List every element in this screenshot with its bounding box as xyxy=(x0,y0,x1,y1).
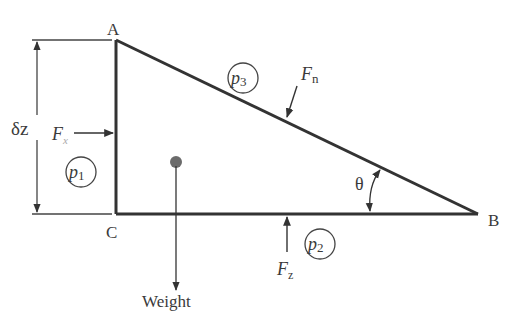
p3-label: p3 xyxy=(229,68,247,89)
fn-arrow-icon xyxy=(287,86,297,117)
force-fx: Fx xyxy=(51,124,113,146)
theta-label: θ xyxy=(355,174,364,194)
fx-label: Fx xyxy=(51,124,68,146)
vertex-c-label: C xyxy=(106,223,117,242)
wedge-triangle xyxy=(116,40,478,214)
vertex-a-label: A xyxy=(107,20,120,39)
fz-label: Fz xyxy=(276,259,293,282)
angle-theta: θ xyxy=(355,170,380,211)
wedge-diagram: A C B δz Fx p1 p3 Fn Weight Fz xyxy=(0,0,515,334)
pressure-p1-badge: p1 xyxy=(66,157,96,187)
fn-label: Fn xyxy=(300,64,319,86)
weight-label: Weight xyxy=(142,292,191,311)
line-gap xyxy=(301,117,311,127)
vertex-b-label: B xyxy=(488,211,499,230)
dimension-label: δz xyxy=(11,118,28,139)
p2-label: p2 xyxy=(306,234,324,255)
pressure-p3-badge: p3 xyxy=(228,63,258,93)
side-ab xyxy=(116,40,478,214)
p1-label: p1 xyxy=(67,162,85,183)
pressure-p2-badge: p2 xyxy=(305,229,335,259)
force-fz: Fz xyxy=(276,217,293,282)
theta-arc-icon xyxy=(370,170,380,211)
force-fn: Fn xyxy=(287,64,319,117)
weight-force: Weight xyxy=(142,156,191,311)
